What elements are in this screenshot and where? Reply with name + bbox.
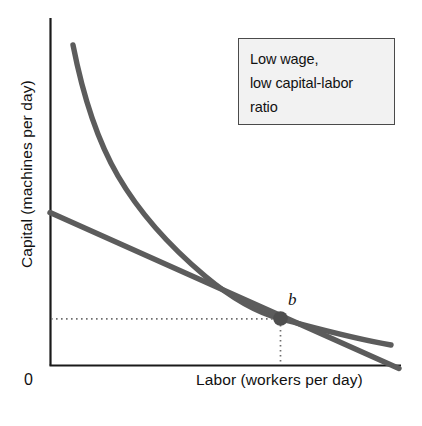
x-axis-title: Labor (workers per day) (196, 371, 363, 389)
tangency-point-marker (273, 311, 288, 326)
annotation-line-3: ratio (250, 95, 394, 119)
tangency-point-label: b (288, 291, 297, 308)
annotation-line-1: Low wage, (250, 47, 394, 71)
annotation-callout-box: Low wage, low capital-labor ratio (238, 38, 395, 125)
annotation-line-2: low capital-labor (250, 71, 394, 95)
y-axis-title: Capital (machines per day) (18, 80, 36, 268)
figure-root: Capital (machines per day) Labor (worker… (0, 0, 422, 426)
origin-label: 0 (24, 371, 33, 389)
isocost-line (50, 213, 399, 369)
